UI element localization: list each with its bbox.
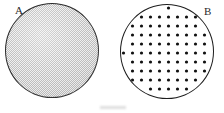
figure-panel: A B [0, 0, 224, 113]
specimen-b [120, 4, 214, 99]
specimen-b-label: B [204, 6, 212, 17]
caption-artifact [100, 106, 126, 109]
specimen-b-disc [120, 4, 214, 99]
specimen-b-dot-pattern [120, 4, 214, 99]
specimen-a-disc [5, 3, 99, 98]
specimen-a [5, 3, 99, 98]
specimen-a-label: A [15, 5, 23, 16]
specimen-a-shading [7, 5, 99, 98]
